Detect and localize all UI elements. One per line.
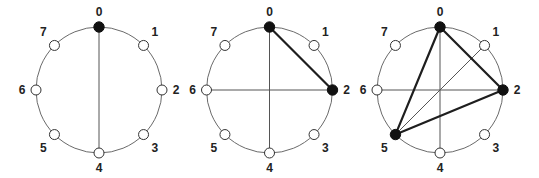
node-label-1: 1 [322,25,329,39]
filled-node-0 [435,22,445,32]
open-node-2 [157,85,167,95]
open-node-7 [220,40,230,50]
filled-node-5 [390,129,400,139]
node-label-0: 0 [437,5,444,19]
filled-node-2 [498,85,508,95]
node-label-2: 2 [343,83,350,97]
node-label-7: 7 [381,25,388,39]
open-node-5 [49,130,59,140]
node-label-0: 0 [96,5,103,19]
open-node-4 [94,148,104,158]
node-label-3: 3 [322,141,329,155]
node-label-1: 1 [492,25,499,39]
node-label-5: 5 [381,141,388,155]
node-label-1: 1 [151,25,158,39]
open-node-7 [390,40,400,50]
open-node-3 [309,130,319,140]
open-node-7 [49,40,59,50]
node-label-3: 3 [492,141,499,155]
open-node-6 [372,85,382,95]
node-label-2: 2 [173,83,180,97]
node-label-6: 6 [189,83,196,97]
node-label-3: 3 [151,141,158,155]
open-node-3 [480,130,490,140]
open-node-4 [265,148,275,158]
panel-1: 01234567 [19,5,180,175]
panel-2: 01234567 [189,5,350,175]
filled-node-0 [264,22,274,32]
open-node-6 [202,85,212,95]
node-label-0: 0 [266,5,273,19]
panel-3: 01234567 [360,5,521,175]
open-node-3 [139,130,149,140]
filled-node-2 [327,85,337,95]
open-node-1 [480,40,490,50]
node-label-2: 2 [514,83,521,97]
open-node-1 [139,40,149,50]
node-label-4: 4 [266,161,273,175]
circle-graph-figure: 012345670123456701234567 [0,0,539,178]
node-label-5: 5 [40,141,47,155]
node-label-7: 7 [40,25,47,39]
node-label-4: 4 [437,161,444,175]
node-label-6: 6 [19,83,26,97]
open-node-1 [309,40,319,50]
filled-node-0 [94,22,104,32]
node-label-6: 6 [360,83,367,97]
open-node-4 [435,148,445,158]
node-label-4: 4 [96,161,103,175]
open-node-6 [31,85,41,95]
node-label-7: 7 [210,25,217,39]
diagram-canvas: 012345670123456701234567 [0,0,539,178]
node-label-5: 5 [210,141,217,155]
open-node-5 [220,130,230,140]
